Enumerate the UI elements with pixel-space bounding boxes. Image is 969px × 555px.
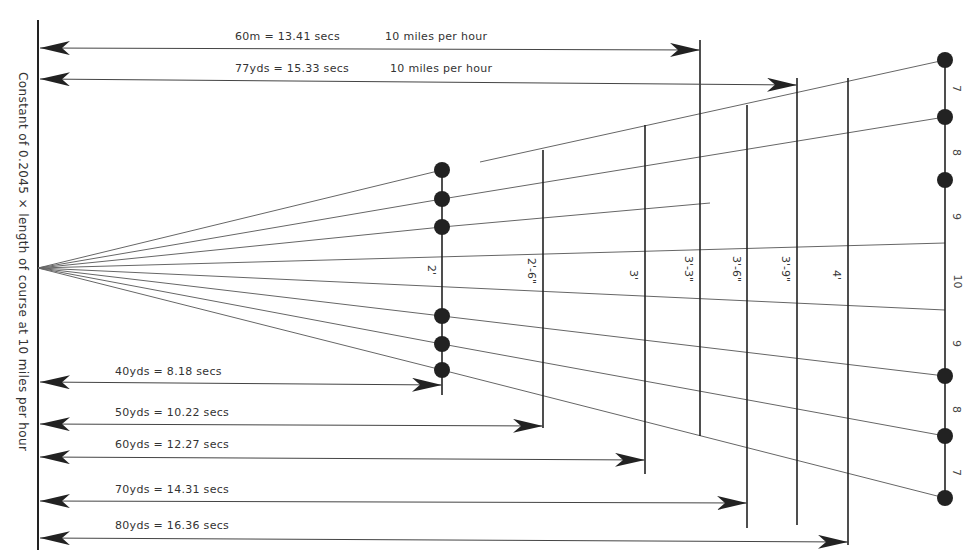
right-scale-number-6: 8 [950, 406, 963, 413]
height-label-3ft: 3' [627, 270, 640, 280]
fan-lines [38, 60, 945, 498]
right-scale-number-5: 9 [950, 340, 963, 347]
height-label-4ft: 4' [830, 270, 843, 280]
bottom-arrow-label-5: 80yds = 16.36 secs [115, 519, 229, 532]
top-arrow-label-2: 77yds = 15.33 secs [235, 62, 349, 75]
hurdle-lines [442, 40, 945, 545]
top-arrow-label-1: 60m = 13.41 secs [235, 30, 340, 43]
bottom-arrow-label-1: 40yds = 8.18 secs [115, 365, 222, 378]
height-label-2ft: 2' [425, 265, 438, 275]
top-arrow-speed-2: 10 miles per hour [390, 62, 492, 75]
side-axis-label: Constant of 0.2045 × length of course at… [16, 72, 30, 451]
height-label-3ft3in: 3'-3" [682, 256, 695, 282]
right-scale-number-3: 9 [950, 213, 963, 220]
right-scale-number-1: 7 [950, 85, 963, 92]
right-scale-number-4: 10 [951, 275, 964, 289]
height-label-3ft6in: 3'-6" [730, 256, 743, 282]
bottom-arrow-label-3: 60yds = 12.27 secs [115, 438, 229, 451]
height-label-2ft6in: 2'-6" [525, 258, 538, 284]
right-scale-number-7: 7 [950, 469, 963, 476]
speed-diagram [0, 0, 969, 555]
height-label-3ft9in: 3'-9" [779, 256, 792, 282]
top-arrow-speed-1: 10 miles per hour [385, 30, 487, 43]
bottom-arrow-label-2: 50yds = 10.22 secs [115, 406, 229, 419]
right-scale-number-2: 8 [950, 149, 963, 156]
bottom-arrow-label-4: 70yds = 14.31 secs [115, 483, 229, 496]
